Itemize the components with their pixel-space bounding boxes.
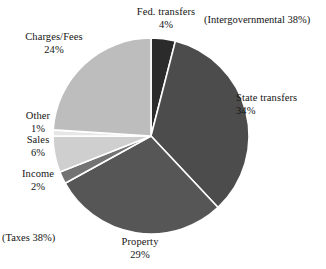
slice-label-property-value: 29% [100,249,180,262]
group-annotation-taxes: (Taxes 38%) [2,232,88,245]
pie-slice-group [53,38,249,234]
group-annotation-intergovernmental: (Intergovernmental 38%) [204,14,324,27]
slice-label-charges-fees-value: 24% [6,44,102,57]
slice-label-income: Income 2% [8,168,68,193]
slice-label-income-value: 2% [8,181,68,194]
slice-label-fed-transfers-name: Fed. transfers [118,6,214,19]
slice-label-sales-name: Sales [12,134,64,147]
pie-chart: Fed. transfers 4% State transfers 34% Ch… [0,0,326,269]
slice-label-other: Other 1% [10,110,66,135]
slice-label-property: Property 29% [100,236,180,261]
slice-label-state-transfers-name: State transfers [236,92,322,105]
slice-label-sales: Sales 6% [12,134,64,159]
slice-label-other-name: Other [10,110,66,123]
slice-label-charges-fees: Charges/Fees 24% [6,31,102,56]
slice-label-state-transfers: State transfers 34% [236,92,322,117]
slice-label-property-name: Property [100,236,180,249]
slice-label-charges-fees-name: Charges/Fees [6,31,102,44]
slice-label-state-transfers-value: 34% [236,105,322,118]
slice-label-fed-transfers: Fed. transfers 4% [118,6,214,31]
slice-label-fed-transfers-value: 4% [118,19,214,32]
slice-label-sales-value: 6% [12,147,64,160]
slice-label-income-name: Income [8,168,68,181]
